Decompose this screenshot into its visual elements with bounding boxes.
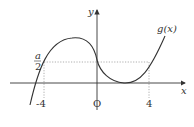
graph-svg: y x O -4 4 g(x) a 2	[0, 0, 194, 127]
tick-label-neg4: -4	[36, 98, 46, 109]
curve-label: g(x)	[157, 23, 177, 34]
x-axis-label: x	[181, 85, 187, 96]
a-half-numerator: a	[35, 50, 41, 61]
origin-label: O	[93, 98, 101, 109]
graph-diagram: y x O -4 4 g(x) a 2	[0, 0, 194, 127]
a-half-denominator: 2	[35, 61, 41, 72]
curve-g	[30, 36, 165, 105]
tick-label-4: 4	[146, 98, 152, 109]
guide-lines	[44, 62, 149, 98]
y-axis-label: y	[87, 6, 94, 17]
